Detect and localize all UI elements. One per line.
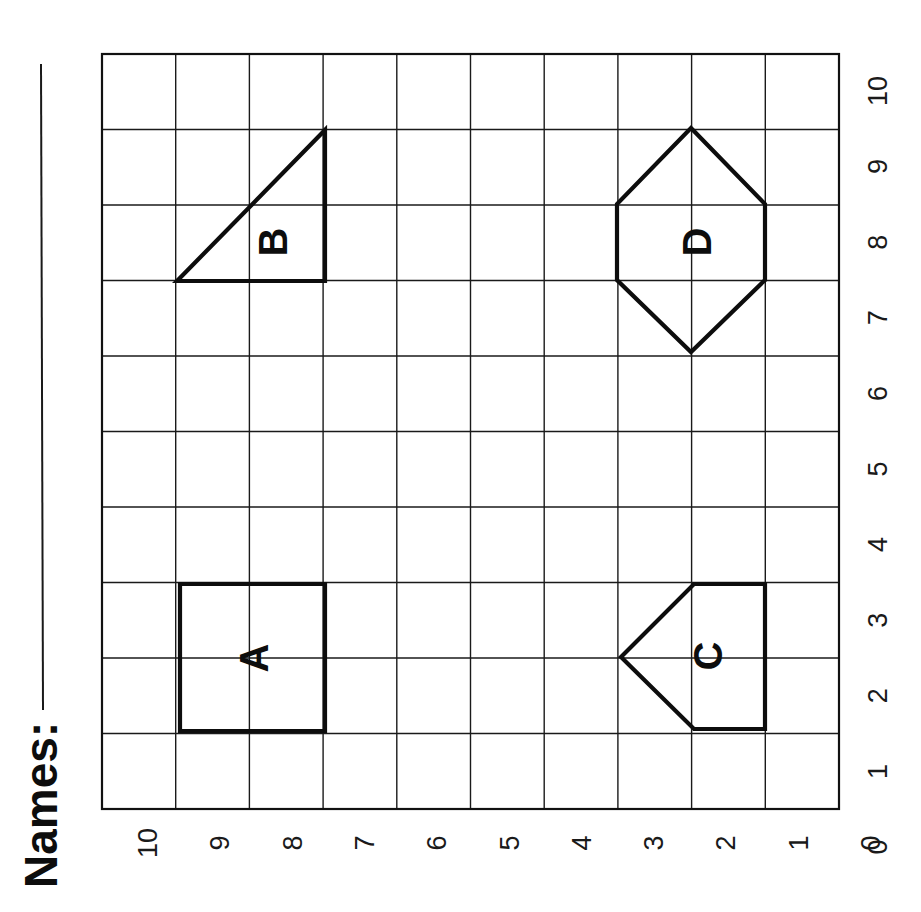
axis-labels-bottom: 109876543210: [133, 828, 886, 858]
axis-label-x-8: 8: [863, 235, 893, 250]
axis-label-x-1: 1: [863, 764, 893, 779]
axis-label-y-3: 3: [639, 835, 669, 850]
axis-label-x-4: 4: [863, 537, 893, 552]
shape-label-a: A: [232, 644, 276, 673]
axis-label-y-9: 9: [205, 835, 235, 850]
axis-label-y-8: 8: [278, 835, 308, 850]
axis-label-x-6: 6: [863, 386, 893, 401]
axis-label-y-1: 1: [784, 835, 814, 850]
axis-label-y-5: 5: [495, 835, 525, 850]
axis-label-x-10: 10: [863, 76, 893, 106]
shape-label-b: B: [251, 228, 295, 257]
axis-label-y-2: 2: [711, 835, 741, 850]
axis-label-y-7: 7: [350, 835, 380, 850]
names-label: Names:: [15, 722, 67, 888]
axis-label-x-3: 3: [863, 613, 893, 628]
shape-label-d: D: [675, 228, 719, 257]
names-writing-line[interactable]: [41, 64, 43, 710]
axis-label-x-5: 5: [863, 461, 893, 476]
shape-label-c: C: [686, 642, 730, 671]
axis-label-y-6: 6: [422, 835, 452, 850]
coordinate-grid-worksheet: Names: 109876543210 012345678910 A B C D: [0, 0, 921, 912]
axis-label-x-0: 0: [863, 839, 893, 854]
axis-label-x-7: 7: [863, 310, 893, 325]
axis-label-x-9: 9: [863, 159, 893, 174]
axis-label-y-10: 10: [133, 828, 163, 858]
axis-label-y-4: 4: [567, 835, 597, 850]
shape-c: C: [621, 584, 765, 729]
names-header: Names:: [15, 64, 67, 888]
axis-label-x-2: 2: [863, 688, 893, 703]
axis-labels-right: 012345678910: [863, 76, 893, 855]
